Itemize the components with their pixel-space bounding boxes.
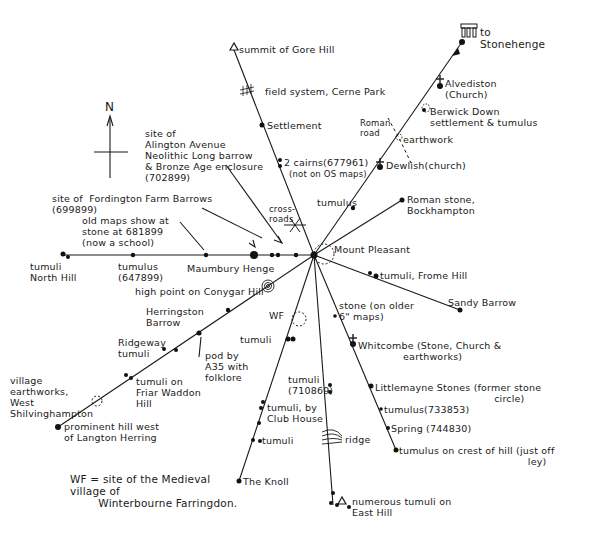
label-sandy-barrow: Sandy Barrow — [448, 297, 516, 308]
label-old-maps: old maps show at stone at 681899 (now a … — [82, 215, 169, 248]
label-conygar: high point on Conygar Hill — [135, 286, 264, 297]
label-ridgeway: Ridgeway tumuli — [118, 337, 166, 359]
label-the-knoll: The Knoll — [243, 476, 289, 487]
label-roman-road: Roman road — [360, 118, 391, 138]
label-fordington: site of Fordington Farm Barrows (699899) — [52, 193, 212, 215]
label-shilvinghampton: village earthworks, West Shilvinghampton — [10, 375, 93, 419]
label-friar-waddon: tumuli on Friar Waddon Hill — [136, 376, 201, 409]
label-tumulus-733853: tumulus(733853) — [384, 404, 469, 415]
north-arrow-icon — [94, 116, 128, 178]
label-tumuli-mid: tumuli — [240, 334, 272, 345]
stonehenge-trilithon-icon — [461, 24, 477, 37]
ley-stonehenge — [314, 42, 462, 255]
label-alington: site of Alington Avenue Neolithic Long b… — [145, 128, 263, 183]
label-ridge: ridge — [345, 434, 370, 445]
label-alvediston: Alvediston (Church) — [445, 78, 497, 100]
label-cairns: 2 cairns(677961) — [284, 157, 368, 168]
label-maumbury: Maumbury Henge — [187, 263, 275, 274]
label-dewlish: Dewlish(church) — [386, 160, 466, 171]
triangle-east-hill-icon — [338, 497, 346, 504]
label-spring: Spring (744830) — [391, 423, 471, 434]
label-crest: tumulus on crest of hill (just off ley) — [399, 445, 554, 467]
label-tumuli-s: tumuli — [262, 435, 294, 446]
hatched-field-system-icon — [240, 84, 254, 96]
label-roman-stone: Roman stone, Bockhampton — [407, 194, 475, 216]
label-cerne-park: field system, Cerne Park — [265, 86, 385, 97]
label-cross-roads: cross- roads — [269, 204, 295, 224]
label-tumulus-ne: tumulus — [317, 197, 357, 208]
label-berwick: Berwick Down settlement & tumulus — [430, 106, 538, 128]
label-settlement: Settlement — [267, 120, 322, 131]
label-club-house: tumuli, by Club House — [267, 402, 323, 424]
label-east-hill: numerous tumuli on East Hill — [352, 496, 451, 518]
ridge-contour-icon — [322, 430, 342, 444]
label-mount-pleasant: Mount Pleasant — [334, 244, 410, 255]
label-tumuli-710869: tumuli (710869) — [288, 374, 333, 396]
label-cairns-note: (not on OS maps) — [289, 169, 367, 179]
label-wf: WF — [269, 310, 284, 321]
north-label: N — [105, 100, 114, 114]
label-tumulus-w: tumulus (647899) — [118, 261, 163, 283]
label-earthwork: earthwork — [403, 134, 453, 145]
label-stone-older: stone (on older 6" maps) — [339, 300, 414, 322]
triangle-summit-icon — [230, 43, 238, 50]
label-herringston: Herringston Barrow — [146, 306, 204, 328]
label-north-hill: tumuli North Hill — [30, 261, 77, 283]
label-pond: pod by A35 with folklore — [205, 350, 248, 383]
label-littlemayne: Littlemayne Stones (former stone circle) — [375, 382, 541, 404]
label-gore-hill: summit of Gore Hill — [239, 44, 335, 55]
label-langton: prominent hill west of Langton Herring — [64, 421, 159, 443]
label-stonehenge: to Stonehenge — [480, 26, 545, 50]
label-whitcombe: Whitcombe (Stone, Church & earthworks) — [358, 340, 501, 362]
label-frome-hill: tumuli, Frome Hill — [380, 270, 467, 281]
label-wf-note: WF = site of the Medieval village of Win… — [70, 473, 237, 509]
